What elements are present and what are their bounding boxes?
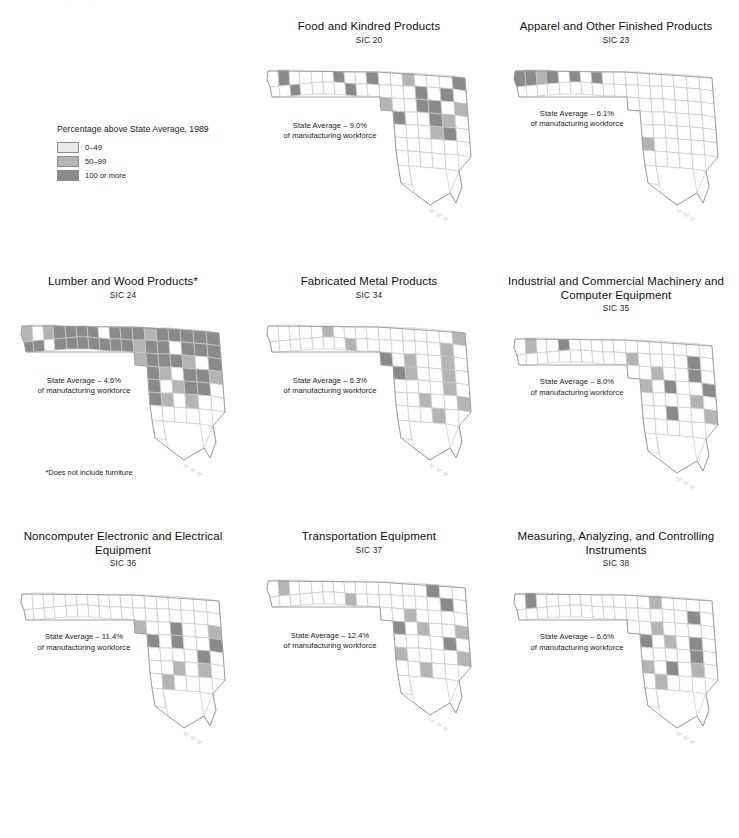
county-22 <box>637 595 650 609</box>
county-52 <box>690 127 704 141</box>
county-54 <box>642 405 655 419</box>
county-51 <box>677 649 691 663</box>
county-28 <box>379 340 392 353</box>
county-55 <box>161 393 174 407</box>
county-44 <box>417 622 430 636</box>
state-average-value: State Average – 6.6% <box>507 632 647 643</box>
county-18 <box>345 338 357 351</box>
county-58 <box>444 395 458 410</box>
county-56 <box>419 393 432 408</box>
panel-title: Transportation Equipment <box>246 530 492 544</box>
key-island-2 <box>684 481 689 485</box>
county-10 <box>120 595 133 608</box>
county-31 <box>662 354 675 368</box>
key-island-1 <box>430 209 435 213</box>
county-31 <box>415 596 428 610</box>
map-area: State Average – 6.6%of manufacturing wor… <box>493 570 739 785</box>
key-island-2 <box>191 736 196 740</box>
county-56 <box>666 406 679 421</box>
county-58 <box>198 663 212 678</box>
county-63 <box>679 676 693 692</box>
county-55 <box>407 138 420 152</box>
county-45 <box>183 636 197 650</box>
county-39 <box>428 355 442 369</box>
county-8 <box>591 340 603 352</box>
county-14 <box>547 83 560 95</box>
county-64 <box>445 154 459 171</box>
county-41 <box>701 625 715 640</box>
county-36 <box>146 353 159 367</box>
county-38 <box>416 609 429 623</box>
county-56 <box>419 648 432 663</box>
county-7 <box>87 594 99 606</box>
county-22 <box>637 340 650 354</box>
county-58 <box>444 650 458 665</box>
county-50 <box>418 635 431 649</box>
county-54 <box>642 137 655 151</box>
county-19 <box>603 607 615 619</box>
county-21 <box>378 72 391 85</box>
key-island-1 <box>677 732 682 736</box>
county-63 <box>432 663 446 679</box>
county-30 <box>403 596 416 609</box>
map-row-2: Lumber and Wood Products*SIC 24State Ave… <box>0 275 739 530</box>
county-29 <box>391 85 404 99</box>
county-46 <box>689 114 703 128</box>
county-47 <box>455 370 469 385</box>
county-10 <box>613 340 626 353</box>
state-average-suffix: of manufacturing workforce <box>507 388 647 399</box>
county-46 <box>442 624 456 638</box>
county-32 <box>427 342 441 356</box>
county-58 <box>691 663 705 678</box>
county-21 <box>378 582 391 595</box>
county-56 <box>666 138 679 153</box>
panel-footnote: *Does not include furniture <box>14 468 164 477</box>
state-average-value: State Average – 9.0% <box>260 121 400 132</box>
county-49 <box>406 125 419 138</box>
county-13 <box>44 339 55 351</box>
county-52 <box>443 637 457 651</box>
key-island-1 <box>430 464 435 468</box>
county-36 <box>392 353 405 367</box>
county-59 <box>457 141 471 157</box>
county-35 <box>380 97 393 111</box>
county-66 <box>656 166 697 205</box>
map-panel-sic-sic-35: Industrial and Commercial Machinery and … <box>493 275 739 530</box>
county-34 <box>453 344 467 359</box>
county-29 <box>145 608 158 622</box>
county-64 <box>445 664 459 681</box>
map-area: State Average – 12.4%of manufacturing wo… <box>246 557 492 772</box>
county-6 <box>569 71 581 82</box>
map-row-3: Noncomputer Electronic and Electrical Eq… <box>0 530 739 785</box>
county-30 <box>650 609 663 622</box>
county-61 <box>162 674 175 690</box>
map-panel-sic-sic-37: Transportation EquipmentSIC 37State Aver… <box>246 530 492 785</box>
county-43 <box>652 112 665 125</box>
county-13 <box>44 607 55 619</box>
map-panel-sic-sic-36: Noncomputer Electronic and Electrical Eq… <box>0 530 246 785</box>
county-50 <box>418 380 431 394</box>
county-63 <box>186 408 200 424</box>
county-37 <box>158 622 171 635</box>
county-59 <box>704 664 718 680</box>
county-2 <box>525 593 537 609</box>
county-9 <box>355 327 367 339</box>
county-35 <box>134 352 147 366</box>
county-7 <box>333 581 345 593</box>
county-6 <box>322 326 334 337</box>
county-34 <box>700 89 714 104</box>
county-5 <box>311 71 323 83</box>
key-island-2 <box>437 213 442 217</box>
county-7 <box>333 326 345 338</box>
county-51 <box>430 381 444 395</box>
county-10 <box>366 327 379 340</box>
county-38 <box>416 354 429 368</box>
county-53 <box>703 651 717 666</box>
county-29 <box>145 340 158 354</box>
county-66 <box>163 421 204 460</box>
state-average-suffix: of manufacturing workforce <box>260 386 400 397</box>
county-16 <box>570 605 582 617</box>
county-64 <box>445 409 459 426</box>
county-41 <box>208 625 222 640</box>
county-29 <box>391 595 404 609</box>
